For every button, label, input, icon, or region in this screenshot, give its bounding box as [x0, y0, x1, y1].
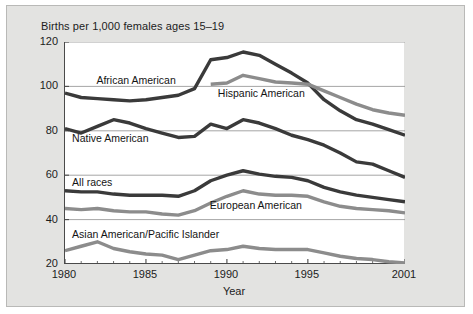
series-line — [65, 120, 405, 178]
series-label-native-american: Native American — [72, 132, 148, 144]
y-axis-tick-label: 40 — [24, 213, 58, 225]
series-label-hispanic-american: Hispanic American — [218, 87, 305, 99]
series-label-asian-american-pacific-islander: Asian American/Pacific Islander — [72, 228, 219, 240]
y-axis-tick-label: 100 — [24, 79, 58, 91]
series-label-all-races: All races — [72, 176, 112, 188]
x-axis-title: Year — [174, 285, 294, 297]
y-axis-tick-label: 120 — [24, 35, 58, 47]
series-label-european-american: European American — [210, 199, 302, 211]
x-axis-tick-label: 1980 — [41, 268, 87, 280]
series-line — [65, 242, 405, 263]
chart-title: Births per 1,000 females ages 15–19 — [41, 20, 224, 32]
y-axis-tick-label: 80 — [24, 124, 58, 136]
x-axis-tick-label: 1985 — [122, 268, 168, 280]
series-label-african-american: African American — [96, 74, 175, 86]
y-axis-tick-label: 60 — [24, 168, 58, 180]
x-axis-tick-label: 1990 — [203, 268, 249, 280]
x-axis-tick-label: 2001 — [381, 268, 427, 280]
x-axis-tick-label: 1995 — [284, 268, 330, 280]
chart-figure: Births per 1,000 females ages 15–19 2040… — [0, 0, 473, 314]
